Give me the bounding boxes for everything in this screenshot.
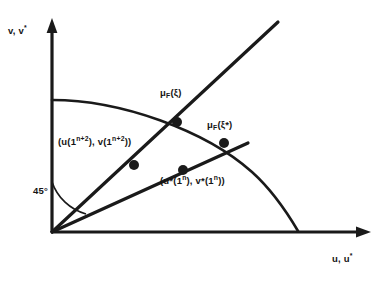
x-axis-label-base: u, u bbox=[332, 253, 350, 264]
y-axis-label-sup: * bbox=[24, 24, 27, 31]
ray-lower bbox=[52, 143, 248, 232]
label-prefix: (u(1 bbox=[58, 136, 76, 147]
angle-arc bbox=[52, 182, 86, 214]
x-axis-label: u, u* bbox=[332, 254, 353, 264]
ray-45-degree bbox=[52, 22, 278, 232]
point-mu-xi bbox=[172, 117, 182, 127]
angle-label: 45° bbox=[33, 186, 48, 196]
y-axis-label: v, v* bbox=[8, 26, 27, 36]
x-axis bbox=[52, 227, 371, 238]
mu-argument: (ξ) bbox=[170, 87, 181, 98]
diagram-canvas: v, v* u, u* μF(ξ) μF(ξ*) (u(1n+2), v(1n+… bbox=[0, 0, 386, 282]
y-axis-label-base: v, v bbox=[8, 25, 24, 36]
label-suffix: )) bbox=[125, 136, 132, 147]
y-axis bbox=[47, 18, 58, 232]
point-lower-label: (u*(1n), v*(1n)) bbox=[160, 176, 225, 186]
x-axis-label-sup: * bbox=[350, 252, 353, 259]
point-upper-interior bbox=[129, 160, 139, 170]
mu-f-xi-star-label: μF(ξ*) bbox=[207, 120, 232, 130]
label-mid: ), v*(1 bbox=[186, 175, 213, 186]
label-suffix: )) bbox=[218, 175, 225, 186]
point-upper-label: (u(1n+2), v(1n+2)) bbox=[58, 137, 131, 147]
mu-argument: (ξ*) bbox=[217, 119, 232, 130]
point-mu-xi-star bbox=[219, 138, 229, 148]
mu-f-xi-label: μF(ξ) bbox=[160, 88, 182, 98]
label-mid: ), v(1 bbox=[89, 136, 112, 147]
label-sup-1: n+2 bbox=[76, 135, 89, 142]
label-sup-2: n+2 bbox=[112, 135, 125, 142]
label-prefix: (u*(1 bbox=[160, 175, 182, 186]
